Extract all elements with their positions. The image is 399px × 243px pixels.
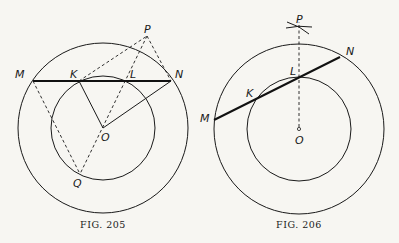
point-label-m: M bbox=[200, 112, 210, 125]
point-label-o: O bbox=[101, 131, 110, 144]
point-label-p: P bbox=[296, 13, 303, 26]
figure-caption: FIG. 206 bbox=[276, 219, 322, 230]
point-label-l: L bbox=[130, 68, 136, 81]
point-label-o: O bbox=[295, 134, 304, 147]
center-point-o bbox=[297, 127, 300, 130]
point-label-n: N bbox=[175, 68, 183, 81]
point-label-p: P bbox=[144, 23, 151, 36]
point-label-k: K bbox=[246, 87, 254, 100]
figure-caption: FIG. 205 bbox=[80, 219, 126, 230]
point-label-n: N bbox=[346, 45, 354, 58]
diagram-canvas: M K L N P O Q FIG. 205 M K L N P O FIG. … bbox=[0, 0, 399, 243]
dashed-kp bbox=[79, 36, 147, 81]
point-label-q: Q bbox=[73, 177, 82, 190]
point-label-l: L bbox=[290, 65, 296, 78]
figure-206: M K L N P O FIG. 206 bbox=[200, 13, 384, 230]
segment-ok bbox=[79, 81, 103, 128]
dashed-mq bbox=[33, 81, 80, 174]
point-label-k: K bbox=[70, 68, 78, 81]
point-label-m: M bbox=[15, 68, 25, 81]
chord-mn bbox=[214, 57, 340, 120]
figure-205: M K L N P O Q FIG. 205 bbox=[15, 23, 188, 230]
dashed-pn bbox=[147, 36, 171, 81]
